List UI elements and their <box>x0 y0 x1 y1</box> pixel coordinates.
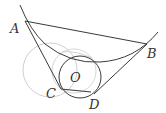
label-b: B <box>146 46 157 61</box>
label-a: A <box>9 21 19 36</box>
geometry-diagram: A B C D O <box>0 0 166 113</box>
tangent-ac <box>25 21 61 89</box>
label-o: O <box>70 70 81 85</box>
tangent-bd <box>94 44 147 94</box>
diagram-canvas: A B C D O <box>0 0 166 113</box>
chord-ab <box>25 21 147 44</box>
label-c: C <box>46 86 56 101</box>
label-d: D <box>88 97 100 112</box>
